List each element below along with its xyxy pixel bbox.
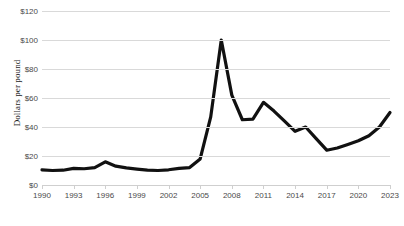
x-axis-line <box>42 185 390 186</box>
x-tick-2014 <box>295 185 296 189</box>
x-tick-2023 <box>390 185 391 189</box>
y-tick-label-120: $120 <box>6 7 38 16</box>
gridline-40 <box>42 127 390 128</box>
x-tick-label-2008: 2008 <box>217 191 247 200</box>
gridline-100 <box>42 40 390 41</box>
gridline-120 <box>42 11 390 12</box>
y-tick-label-60: $60 <box>6 94 38 103</box>
x-tick-label-2005: 2005 <box>185 191 215 200</box>
x-tick-1999 <box>137 185 138 189</box>
x-tick-label-2011: 2011 <box>248 191 278 200</box>
x-tick-2011 <box>263 185 264 189</box>
gridline-60 <box>42 98 390 99</box>
x-tick-2020 <box>358 185 359 189</box>
y-tick-label-40: $40 <box>6 123 38 132</box>
x-tick-label-2014: 2014 <box>280 191 310 200</box>
x-tick-2002 <box>169 185 170 189</box>
x-tick-label-2020: 2020 <box>343 191 373 200</box>
gridline-20 <box>42 156 390 157</box>
x-tick-2005 <box>200 185 201 189</box>
x-tick-label-1993: 1993 <box>59 191 89 200</box>
x-tick-label-1996: 1996 <box>90 191 120 200</box>
x-tick-label-1990: 1990 <box>27 191 57 200</box>
y-tick-label-20: $20 <box>6 152 38 161</box>
x-tick-label-2002: 2002 <box>154 191 184 200</box>
x-tick-1996 <box>105 185 106 189</box>
y-tick-label-100: $100 <box>6 36 38 45</box>
x-tick-label-1999: 1999 <box>122 191 152 200</box>
y-tick-label-0: $0 <box>6 181 38 190</box>
price-line <box>42 40 390 171</box>
x-tick-2017 <box>327 185 328 189</box>
x-tick-label-2023: 2023 <box>375 191 404 200</box>
plot-area <box>42 11 390 185</box>
x-tick-1993 <box>74 185 75 189</box>
x-tick-label-2017: 2017 <box>312 191 342 200</box>
x-tick-2008 <box>232 185 233 189</box>
y-tick-label-80: $80 <box>6 65 38 74</box>
gridline-80 <box>42 69 390 70</box>
x-tick-1990 <box>42 185 43 189</box>
